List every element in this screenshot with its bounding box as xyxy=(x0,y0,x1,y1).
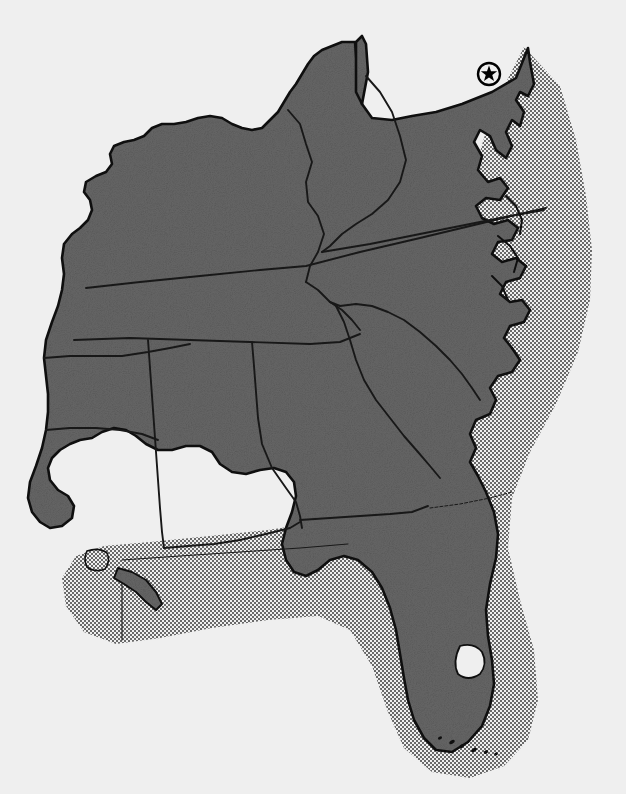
scan-grain-overlay xyxy=(0,0,626,794)
southeast-us-map[interactable] xyxy=(0,0,626,794)
map-figure: Southeastern United States Shaded relief… xyxy=(0,0,626,794)
